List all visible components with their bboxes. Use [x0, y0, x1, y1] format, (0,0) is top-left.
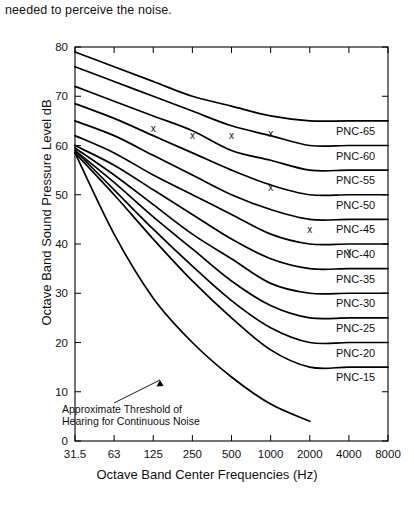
y-tick-label: 40: [55, 238, 68, 250]
y-tick-label: 50: [55, 189, 68, 201]
x-tick-label: 31.5: [64, 448, 86, 460]
y-tick-label: 30: [55, 287, 68, 299]
x-tick-label: 2000: [297, 448, 323, 460]
y-tick-label: 10: [55, 386, 68, 398]
x-tick-label: 500: [222, 448, 241, 460]
body-text-above-chart: needed to perceive the noise.: [5, 3, 172, 17]
y-tick-label: 0: [62, 435, 68, 447]
data-marker-x-5: x: [307, 224, 312, 235]
curve-label-PNC-25: PNC-25: [336, 322, 375, 334]
curve-label-PNC-55: PNC-55: [336, 174, 375, 186]
y-tick-label: 20: [55, 337, 68, 349]
annotation-layer: Approximate Threshold ofHearing for Cont…: [62, 380, 200, 427]
x-axis-label: Octave Band Center Frequencies (Hz): [0, 467, 414, 482]
curve-label-PNC-45: PNC-45: [336, 223, 375, 235]
curve-label-PNC-40: PNC-40: [336, 248, 375, 260]
y-tick-label: 80: [55, 41, 68, 53]
chart-page: needed to perceive the noise. Octave Ban…: [0, 0, 414, 506]
y-tick-label: 70: [55, 90, 68, 102]
pnc-curves-plot: 0102030405060708031.56312525050010002000…: [0, 30, 414, 460]
threshold-leader-line: [114, 380, 160, 403]
x-tick-label: 63: [108, 448, 121, 460]
y-tick-label: 60: [55, 140, 68, 152]
x-tick-label: 125: [144, 448, 163, 460]
x-tick-label: 1000: [258, 448, 284, 460]
data-marker-x-1: x: [190, 130, 195, 141]
x-tick-label: 250: [183, 448, 202, 460]
curve-label-PNC-15: PNC-15: [336, 371, 375, 383]
curve-threshold: [75, 153, 310, 421]
data-marker-x-4: x: [268, 182, 273, 193]
curve-PNC-65: [75, 52, 388, 121]
data-marker-x-0: x: [151, 123, 156, 134]
curve-label-PNC-30: PNC-30: [336, 297, 375, 309]
data-marker-x-2: x: [229, 130, 234, 141]
y-axis-label: Octave Band Sound Pressure Level dB: [39, 83, 54, 343]
threshold-note-line-2: Hearing for Continuous Noise: [62, 415, 200, 427]
data-marker-x-3: x: [268, 128, 273, 139]
curve-label-PNC-50: PNC-50: [336, 199, 375, 211]
curve-label-PNC-65: PNC-65: [336, 125, 375, 137]
threshold-note-line-1: Approximate Threshold of: [62, 403, 182, 415]
chart-container: Octave Band Sound Pressure Level dB Octa…: [0, 30, 414, 506]
curve-label-PNC-35: PNC-35: [336, 273, 375, 285]
x-tick-label: 4000: [336, 448, 362, 460]
x-tick-label: 8000: [375, 448, 401, 460]
curve-layer: [75, 52, 388, 421]
curve-label-PNC-60: PNC-60: [336, 150, 375, 162]
curve-label-layer: PNC-65PNC-60PNC-55PNC-50PNC-45PNC-40PNC-…: [336, 125, 375, 383]
data-marker-x-6: x: [346, 246, 351, 257]
curve-label-PNC-20: PNC-20: [336, 347, 375, 359]
